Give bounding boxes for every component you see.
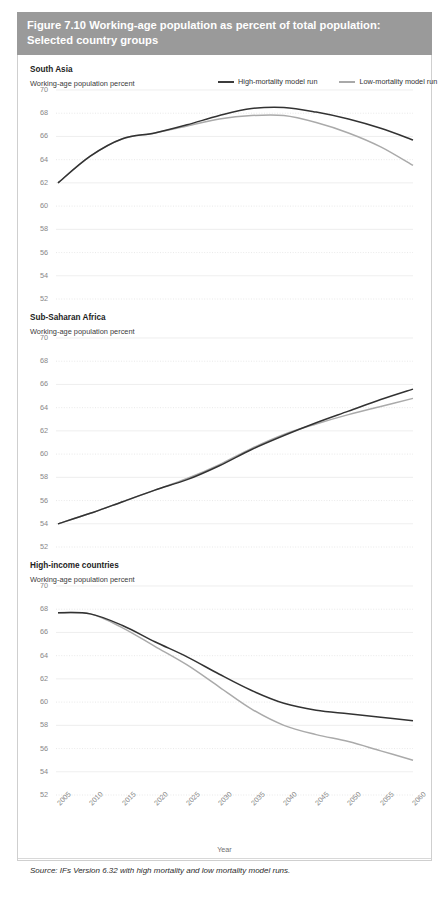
panel-title-sub-saharan-africa: Sub-Saharan Africa [30,313,106,322]
y-axis-tick-label: 56 [30,248,48,257]
y-axis-tick-label: 54 [30,767,48,776]
y-axis-tick-label: 56 [30,496,48,505]
plot-area-high-income: 52545658606264666870 [18,583,431,798]
source-divider [18,858,431,859]
x-axis-title: Year [18,845,431,854]
y-axis-tick-label: 66 [30,627,48,636]
y-axis-tick-label: 64 [30,651,48,660]
y-axis-tick-label: 60 [30,201,48,210]
plot-area-south-asia: 52545658606264666870 [18,87,431,302]
y-axis-tick-label: 56 [30,744,48,753]
y-axis-tick-label: 70 [30,581,48,590]
legend-item-high-mortality: High-mortality model run [218,77,317,86]
legend-item-low-mortality: Low-mortality model run [339,77,437,86]
panel-title-south-asia: South Asia [30,65,72,74]
y-axis-tick-label: 58 [30,224,48,233]
legend-swatch-low-mortality-icon [339,81,355,83]
series-line-low-mortality [58,115,413,183]
y-axis-tick-label: 52 [30,542,48,551]
chart-svg-2 [18,583,431,798]
y-axis-tick-label: 64 [30,403,48,412]
figure-title-line-1: Figure 7.10 Working-age population as pe… [27,18,422,33]
legend-label-low-mortality: Low-mortality model run [359,77,437,86]
y-axis-tick-label: 70 [30,85,48,94]
panel-title-high-income: High-income countries [30,561,119,570]
y-axis-tick-label: 62 [30,674,48,683]
y-axis-tick-label: 60 [30,697,48,706]
y-axis-tick-label: 58 [30,472,48,481]
series-line-high-mortality [58,107,413,183]
y-axis-tick-label: 64 [30,155,48,164]
figure-title-line-2: Selected country groups [27,33,422,48]
y-axis-tick-label: 70 [30,333,48,342]
series-line-low-mortality [58,612,413,760]
chart-legend: High-mortality model run Low-mortality m… [218,77,437,86]
y-axis-tick-label: 58 [30,720,48,729]
chart-svg-1 [18,335,431,550]
y-axis-tick-label: 52 [30,294,48,303]
figure-container: Figure 7.10 Working-age population as pe… [17,12,432,855]
y-axis-tick-label: 60 [30,449,48,458]
legend-label-high-mortality: High-mortality model run [238,77,317,86]
source-note: Source: IFs Version 6.32 with high morta… [30,866,290,875]
y-axis-tick-label: 68 [30,108,48,117]
y-axis-tick-label: 62 [30,426,48,435]
y-axis-tick-label: 68 [30,604,48,613]
series-line-low-mortality [58,398,413,523]
figure-body: South Asia Working-age population percen… [17,55,432,861]
series-line-high-mortality [58,613,413,721]
y-axis-tick-label: 54 [30,519,48,528]
legend-swatch-high-mortality-icon [218,81,234,83]
figure-title-banner: Figure 7.10 Working-age population as pe… [17,12,432,55]
y-axis-tick-label: 66 [30,131,48,140]
chart-svg-0 [18,87,431,302]
y-axis-tick-label: 66 [30,379,48,388]
y-axis-tick-label: 68 [30,356,48,365]
y-axis-tick-label: 62 [30,178,48,187]
y-axis-tick-label: 54 [30,271,48,280]
y-axis-tick-label: 52 [30,790,48,799]
plot-area-sub-saharan-africa: 52545658606264666870 [18,335,431,550]
